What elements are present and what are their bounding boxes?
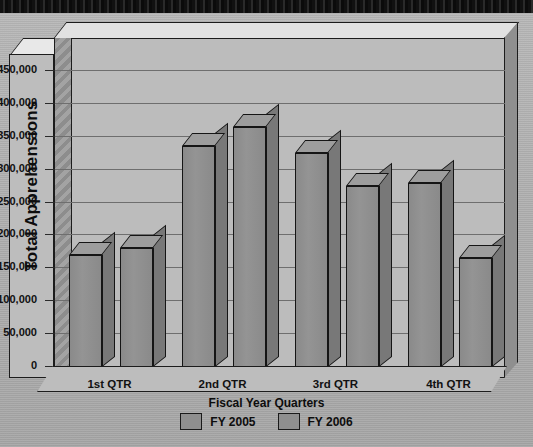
bar-front-face [69,255,102,380]
cropped-header-band [0,0,533,13]
legend-item-fy-2005: FY 2005 [180,413,255,430]
bar-side-face [328,130,341,367]
bar-front-face [182,146,215,380]
bar-side-face [215,123,228,367]
bar-3rd-qtr-fy-2005 [295,153,328,380]
bar-1st-qtr-fy-2005 [69,255,102,380]
y-axis-tick [45,267,55,268]
bar-chart: 050,000100,000150,000200,000250,000300,0… [9,26,523,378]
x-axis-label-2: 2nd QTR [178,378,268,390]
y-axis-tick [45,70,55,71]
bar-3rd-qtr-fy-2006 [346,186,379,380]
y-axis-tick [45,234,55,235]
legend-swatch [180,413,202,430]
legend-swatch [278,413,300,430]
legend-label: FY 2005 [210,415,255,429]
bar-2nd-qtr-fy-2006 [233,127,266,380]
bar-front-face [346,186,379,380]
legend: Fiscal Year Quarters FY 2005FY 2006 [0,396,533,430]
x-axis-label-1: 1st QTR [65,378,155,390]
y-axis-tick [45,202,55,203]
y-axis-tick [45,136,55,137]
bar-side-face [441,159,454,366]
y-axis-tick [45,333,55,334]
gridline [53,136,505,137]
bar-front-face [120,248,153,380]
gridline [53,70,505,71]
y-axis-tick [45,103,55,104]
bar-side-face [153,225,166,367]
bar-4th-qtr-fy-2006 [459,258,492,380]
bar-front-face [408,183,441,380]
y-axis-tick [45,169,55,170]
y-axis-tick-label: 0 [0,359,37,371]
x-axis-label-4: 4th QTR [404,378,494,390]
y-axis-title: Total Apprehensions [22,81,42,291]
legend-items: FY 2005FY 2006 [0,413,533,430]
bar-front-face [295,153,328,380]
bar-side-face [266,104,279,367]
y-axis-tick-label: 100,000 [0,293,37,305]
plot-back-wall-top [53,22,519,39]
y-axis-tick-label: 50,000 [0,326,37,338]
bar-front-face [233,127,266,380]
bar-side-face [379,163,392,367]
bar-1st-qtr-fy-2006 [120,248,153,380]
gridline [53,103,505,104]
legend-item-fy-2006: FY 2006 [278,413,353,430]
y-axis-tick-label: 450,000 [0,63,37,75]
bar-2nd-qtr-fy-2005 [182,146,215,380]
legend-title: Fiscal Year Quarters [0,396,533,410]
legend-label: FY 2006 [308,415,353,429]
x-axis-label-3: 3rd QTR [291,378,381,390]
plot-right-wall [504,22,518,378]
bar-front-face [459,258,492,380]
y-axis-tick [45,300,55,301]
bar-4th-qtr-fy-2005 [408,183,441,380]
